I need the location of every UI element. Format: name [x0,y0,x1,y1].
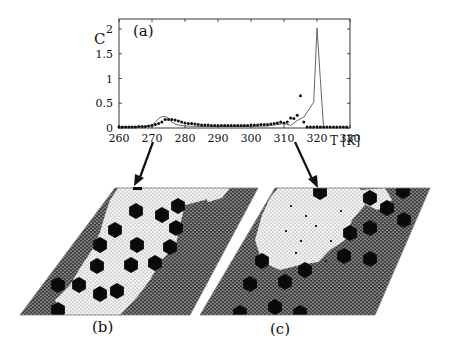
panel-b-label: (b) [92,318,113,336]
y-axis-label: C [94,30,105,48]
x-tick-label: 310 [274,132,295,145]
y-tick-label: 2 [106,23,113,36]
y-tick-label: 0 [106,122,113,135]
x-tick-label: 290 [208,132,229,145]
arrow-to-b [134,142,153,186]
x-tick-label: 320 [307,132,328,145]
y-tick-label: 1 [106,73,113,86]
x-tick-label: 280 [175,132,196,145]
panel-c-label: (c) [270,320,290,338]
x-tick-label: 300 [241,132,262,145]
arrow-to-c [295,142,318,188]
y-tick-label: 0.5 [96,97,114,110]
y-tick-label: 1.5 [96,48,114,61]
panel-a-label: (a) [133,22,154,40]
model-line [119,28,324,128]
figure: 26027028029030031032033000.511.52 [0,0,453,354]
x-axis-label: T [K] [330,134,360,148]
